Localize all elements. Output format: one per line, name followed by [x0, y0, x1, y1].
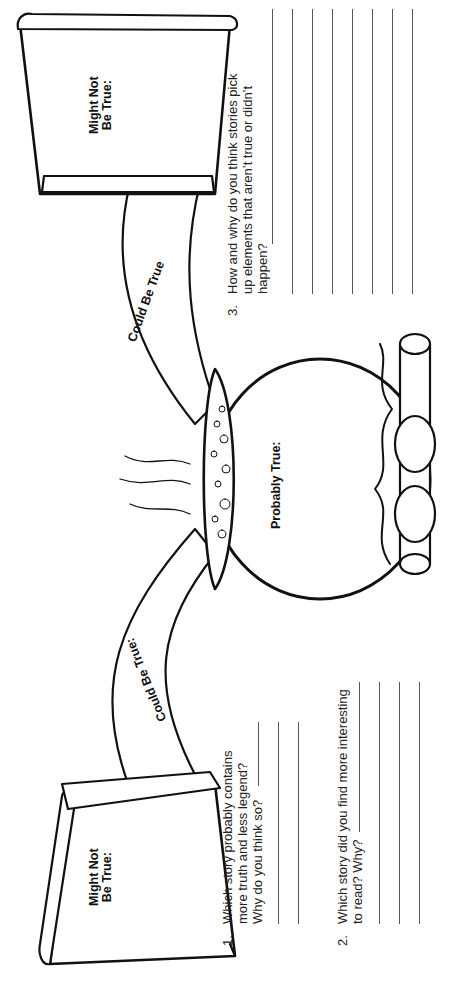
question-line: happen? — [255, 54, 270, 294]
label-probably-true: Probably True: — [270, 441, 283, 529]
question-number: 1. — [220, 935, 235, 946]
answer-line[interactable] — [332, 9, 333, 294]
question-line: to read? Why? — [350, 684, 365, 924]
question-line: How and why do you think stories pick — [225, 54, 240, 294]
question-line: more truth and less legend? — [235, 724, 250, 924]
cauldron-body — [210, 359, 430, 599]
answer-line[interactable] — [419, 682, 420, 924]
answer-line[interactable] — [312, 9, 313, 294]
label-might-not-be-true-left: Might Not Be True: — [88, 848, 114, 906]
answer-line[interactable] — [399, 682, 400, 924]
right-cup — [20, 24, 230, 194]
cauldron-rim — [204, 369, 234, 589]
question-3: 3. How and why do you think stories pick… — [225, 54, 270, 294]
answer-line[interactable] — [352, 9, 353, 294]
answer-line[interactable] — [392, 9, 393, 294]
question-line: Which story probably contains — [220, 724, 235, 924]
answer-line[interactable] — [292, 9, 293, 294]
answer-line[interactable] — [359, 682, 360, 832]
label-line: Be True: — [101, 848, 114, 906]
question-line: up elements that aren’t true or didn’t — [240, 54, 255, 294]
answer-line[interactable] — [298, 722, 299, 924]
worksheet-page: Might Not Be True: Could Be True: Probab… — [0, 0, 451, 984]
left-cup — [50, 784, 235, 964]
question-line: Which story did you find more interestin… — [335, 684, 350, 924]
question-number: 3. — [225, 305, 240, 316]
answer-line[interactable] — [272, 9, 273, 244]
question-number: 2. — [335, 935, 350, 946]
answer-line[interactable] — [412, 9, 413, 294]
label-might-not-be-true-right: Might Not Be True: — [88, 76, 114, 134]
left-tube — [112, 529, 215, 789]
answer-line[interactable] — [372, 9, 373, 294]
question-2: 2. Which story did you find more interes… — [335, 684, 365, 924]
answer-line[interactable] — [278, 722, 279, 924]
answer-line[interactable] — [379, 682, 380, 924]
label-line: Be True: — [101, 76, 114, 134]
answer-line[interactable] — [258, 722, 259, 786]
